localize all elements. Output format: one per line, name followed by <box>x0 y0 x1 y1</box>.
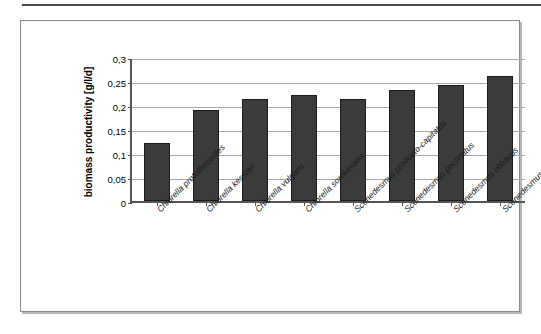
bar[interactable] <box>487 76 513 201</box>
bar[interactable] <box>438 85 464 201</box>
y-axis-tick-mark <box>128 203 132 204</box>
x-axis-category-label: Chlorella protothecoides <box>155 207 162 214</box>
x-axis-category-label: Scenedesmus acuminatus <box>500 207 507 214</box>
bar[interactable] <box>144 143 170 201</box>
x-axis-category-label: Chlorella sorokiniana <box>303 207 310 214</box>
x-axis-category-label: Chlorella vulgaris <box>253 207 260 214</box>
bar-slot <box>132 59 181 201</box>
y-axis-tick-label: 0,2 <box>86 102 126 113</box>
y-axis-tick-label: 0,15 <box>86 126 126 137</box>
y-axis-tick-label: 0 <box>86 198 126 209</box>
figure-page: biomass productivity [g/l/d] 0,30,250,20… <box>0 0 541 334</box>
bar[interactable] <box>389 90 415 201</box>
y-axis-tick-label: 0,25 <box>86 78 126 89</box>
y-axis-tick-labels: 0,30,250,20,150,10,050 <box>81 59 126 203</box>
y-axis-tick-label: 0,05 <box>86 174 126 185</box>
y-axis-tick-label: 0,1 <box>86 150 126 161</box>
x-axis-category-label: Scenedesmus pectinatus <box>402 207 409 214</box>
x-axis-category-label: Chlorella kessleri <box>204 207 211 214</box>
x-axis-category-label: Scenedesmus producto-capitatus <box>352 207 359 214</box>
bar[interactable] <box>291 95 317 201</box>
x-axis-category-label: Scenedesmus obliquus <box>451 207 458 214</box>
chart-frame: biomass productivity [g/l/d] 0,30,250,20… <box>20 20 520 312</box>
page-top-rule <box>22 4 541 6</box>
y-axis-tick-label: 0,3 <box>86 54 126 65</box>
x-axis-category-labels: Chlorella protothecoidesChlorella kessle… <box>130 207 525 327</box>
bar[interactable] <box>242 99 268 201</box>
bar[interactable] <box>340 99 366 201</box>
